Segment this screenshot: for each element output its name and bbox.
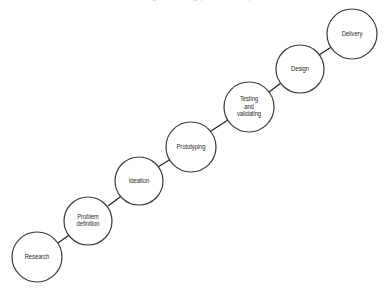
nodes-layer xyxy=(12,9,377,282)
node-circle-ideation[interactable] xyxy=(115,157,163,205)
node-circle-problem[interactable] xyxy=(64,197,112,245)
node-circle-research[interactable] xyxy=(12,232,62,282)
node-circle-testing[interactable] xyxy=(224,82,274,132)
diagram-canvas: Design thinking process steps ResearchPr… xyxy=(0,0,392,293)
process-flow-diagram xyxy=(0,0,392,293)
node-circle-prototype[interactable] xyxy=(166,122,216,172)
node-circle-design[interactable] xyxy=(276,45,324,93)
node-circle-delivery[interactable] xyxy=(327,9,377,59)
